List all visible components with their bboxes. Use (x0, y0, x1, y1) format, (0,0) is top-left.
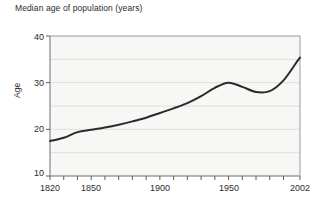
plot-area (0, 0, 321, 204)
x-axis-ticks (50, 176, 300, 180)
median-age-chart: Median age of population (years) Age 40 … (0, 0, 321, 204)
y-axis-ticks (46, 36, 50, 176)
